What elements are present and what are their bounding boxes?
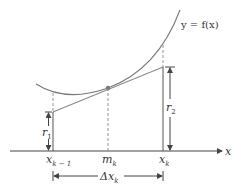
interval-label: Δxk (99, 170, 118, 185)
midpoint-label: mk (102, 153, 117, 168)
x-axis-label: x (225, 145, 232, 158)
x-prev-label: xk − 1 (46, 153, 71, 168)
curve-label: y = f(x) (180, 19, 219, 30)
riemann-tangent-diagram: x y = f(x) r1 r2 xk − 1 mk xk Δxk (0, 0, 235, 185)
x-curr-label: xk (159, 153, 169, 168)
r2-label: r2 (166, 101, 176, 116)
r1-label: r1 (42, 126, 52, 141)
function-curve (36, 10, 180, 94)
